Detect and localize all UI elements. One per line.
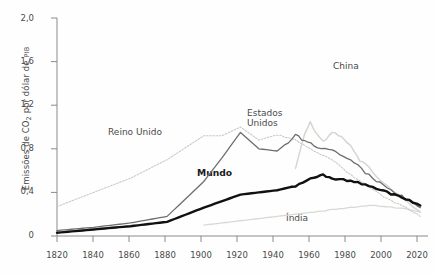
series-line-estados-unidos <box>57 132 420 230</box>
series-layer <box>57 122 420 233</box>
chart-container: Emissões de CO2 por dólar de PIB 2,0 1,6… <box>0 0 435 274</box>
series-line-mundo <box>57 174 420 232</box>
x-tick-marks <box>57 236 417 242</box>
plot-svg <box>0 0 435 274</box>
series-line-reino-unido <box>57 127 420 216</box>
y-tick-marks <box>51 18 57 236</box>
series-line-ndia <box>204 205 421 225</box>
